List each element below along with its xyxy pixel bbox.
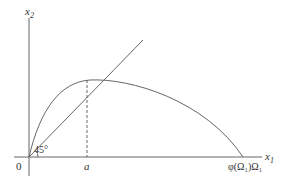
production-curve xyxy=(29,80,243,157)
a-label: a xyxy=(84,161,90,172)
x-end-label: φ(Ω₁)Ω₁ xyxy=(228,162,262,172)
y-axis-label: x2 xyxy=(25,6,34,20)
angle-label: 45° xyxy=(34,145,48,155)
diagram-canvas xyxy=(0,0,287,183)
origin-label: 0 xyxy=(16,161,22,172)
45-degree-line xyxy=(29,40,143,157)
x-axis-label: x1 xyxy=(265,151,274,165)
